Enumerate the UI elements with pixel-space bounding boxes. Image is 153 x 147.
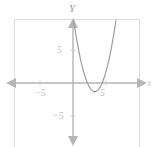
x-axis-arrow-right — [137, 78, 147, 88]
figure-canvas: Y x 5 −5 5 −5 — [0, 0, 153, 147]
x-axis-arrow-left — [6, 78, 16, 88]
coordinate-plane-plot — [0, 0, 153, 147]
tick-label-x-negative-5: −5 — [34, 88, 46, 98]
tick-label-y-positive-5: 5 — [57, 45, 62, 55]
tick-label-x-positive-5: 5 — [100, 88, 105, 98]
parabola-vertex-point — [94, 91, 96, 93]
y-axis-arrow-down — [68, 136, 78, 146]
x-axis-label: x — [147, 78, 151, 88]
parabola-curve — [74, 21, 116, 92]
y-axis-label: Y — [69, 3, 75, 14]
tick-label-y-negative-5: −5 — [52, 111, 64, 121]
